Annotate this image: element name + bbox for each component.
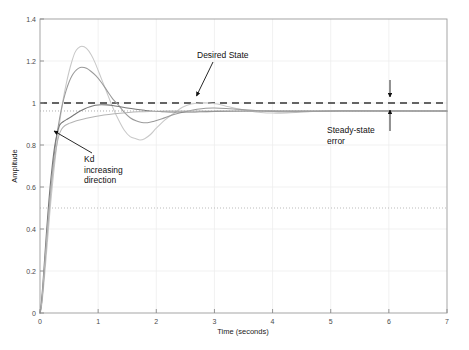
kd-annotation-line3: direction bbox=[84, 175, 116, 185]
x-tick-label: 4 bbox=[271, 318, 275, 325]
y-tick-label: 1.2 bbox=[26, 58, 36, 65]
x-tick-label: 6 bbox=[387, 318, 391, 325]
y-tick-label: 1 bbox=[32, 100, 36, 107]
sse-annotation-line2: error bbox=[327, 136, 345, 146]
y-tick-label: 0.2 bbox=[26, 268, 36, 275]
kd-increasing-annotation: Kdincreasingdirection bbox=[84, 154, 123, 186]
x-tick-label: 2 bbox=[154, 318, 158, 325]
y-tick-label: 0.6 bbox=[26, 184, 36, 191]
sse-annotation-line1: Steady-state bbox=[327, 125, 375, 135]
y-tick-label: 0.8 bbox=[26, 142, 36, 149]
steady-state-error-annotation: Steady-stateerror bbox=[327, 125, 375, 146]
y-axis-label: Amplitude bbox=[10, 149, 19, 182]
x-tick-label: 1 bbox=[96, 318, 100, 325]
x-tick-label: 3 bbox=[212, 318, 216, 325]
y-tick-label: 0.4 bbox=[26, 226, 36, 233]
x-tick-label: 5 bbox=[329, 318, 333, 325]
x-axis-label: Time (seconds) bbox=[217, 327, 269, 336]
x-tick-label: 0 bbox=[38, 318, 42, 325]
y-tick-label: 0 bbox=[32, 310, 36, 317]
kd-annotation-line1: Kd bbox=[84, 154, 94, 164]
x-tick-label: 7 bbox=[445, 318, 449, 325]
kd-annotation-line2: increasing bbox=[84, 165, 123, 175]
y-tick-label: 1.4 bbox=[26, 16, 36, 23]
desired-state-annotation: Desired State bbox=[197, 50, 249, 61]
